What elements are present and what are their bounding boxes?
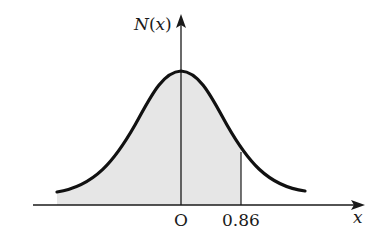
x-axis-label: x [353, 207, 363, 227]
marker-value-label: 0.86 [222, 210, 260, 230]
origin-label: O [174, 210, 188, 230]
normal-curve-diagram: N(x) O 0.86 x [0, 0, 382, 236]
y-axis-label: N(x) [133, 14, 172, 34]
